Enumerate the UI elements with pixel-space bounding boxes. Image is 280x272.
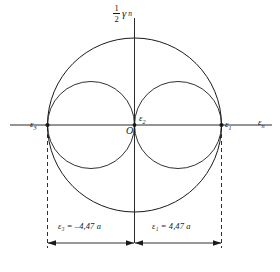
fraction-denominator: 2 [113, 15, 119, 24]
horizontal-axis-label: εn [258, 118, 265, 129]
point-label-eps1: ε1 [225, 120, 232, 131]
dimension-label-left: ε₃ = –4,47 a [58, 222, 101, 231]
point-marker-eps1 [219, 123, 223, 127]
epsilon-n-subscript: n [262, 123, 265, 129]
eps2-subscript: 2 [143, 119, 146, 125]
point-label-eps3: ε3 [30, 120, 37, 131]
arrowhead-left-outer [48, 240, 57, 246]
arrowhead-left-inner [126, 240, 134, 246]
eps1-subscript: 1 [229, 125, 232, 131]
origin-label: O [126, 126, 133, 136]
one-half-fraction: 1 2 [113, 4, 120, 24]
arrowhead-right-inner [135, 240, 143, 246]
eps3-subscript: 3 [34, 125, 37, 131]
gamma-subscript: n [128, 10, 132, 17]
mohr-circle-drawing [0, 0, 280, 272]
fraction-numerator: 1 [113, 4, 119, 13]
vertical-axis-label: 1 2 γn [113, 4, 132, 24]
point-marker-eps3 [45, 123, 49, 127]
point-label-eps2: ε2 [139, 114, 146, 125]
gamma-symbol: γ [122, 8, 126, 19]
mohr-circle-figure: 1 2 γn εn ε1 ε3 ε2 O ε₃ = –4,47 a ε₁ = 4… [0, 0, 280, 272]
dimension-label-right: ε₁ = 4,47 a [152, 222, 191, 231]
arrowhead-right-outer [213, 240, 222, 246]
